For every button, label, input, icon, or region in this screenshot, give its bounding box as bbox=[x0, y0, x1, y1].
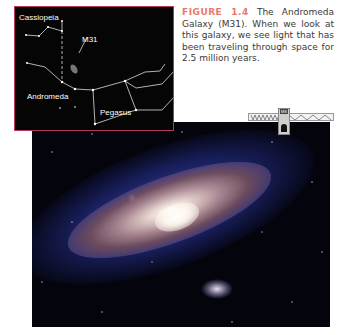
label-pegasus: Pegasus bbox=[100, 108, 131, 117]
marker-knob-icon bbox=[281, 124, 287, 132]
scale-marker: MS bbox=[278, 108, 290, 135]
timeline-scale bbox=[248, 113, 334, 121]
constellation-map-inset: Cassiopeia M31 Andromeda Pegasus bbox=[14, 6, 174, 131]
figure-label: FIGURE 1.4 bbox=[182, 7, 249, 17]
star-field bbox=[32, 122, 330, 327]
label-cassiopeia: Cassiopeia bbox=[19, 13, 59, 22]
label-andromeda: Andromeda bbox=[27, 92, 68, 101]
figure-caption: FIGURE 1.4 The Andromeda Galaxy (M31). W… bbox=[182, 7, 334, 65]
andromeda-galaxy-photo bbox=[32, 122, 330, 327]
constellation-lines bbox=[15, 7, 174, 131]
wave-scale-icon bbox=[249, 114, 335, 122]
label-m31: M31 bbox=[82, 35, 98, 44]
marker-tag: MS bbox=[280, 109, 288, 114]
